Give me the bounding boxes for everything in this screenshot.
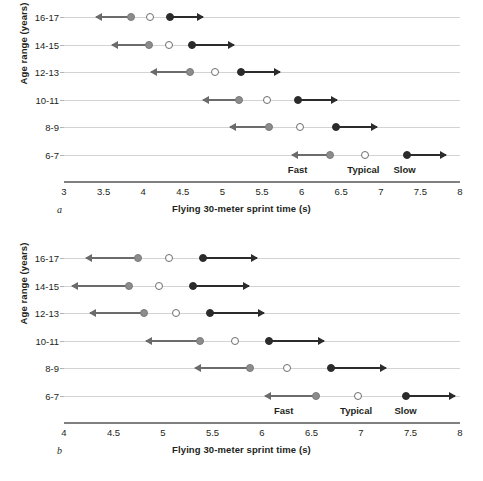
x-tick-labels-a: 33.544.555.566.577.58 xyxy=(0,186,483,200)
chart-row: 12-13 xyxy=(64,64,460,80)
x-tick-label: 3 xyxy=(61,186,66,197)
x-tick-label: 7 xyxy=(358,427,363,438)
row-category-label: 12-13 xyxy=(35,67,59,78)
arrow-head xyxy=(258,309,265,317)
x-tick-label: 4 xyxy=(141,186,146,197)
row-category-label: 8-9 xyxy=(45,363,59,374)
fast-marker xyxy=(134,254,142,262)
x-tick-label: 8 xyxy=(457,427,462,438)
fast-marker xyxy=(235,96,243,104)
slow-marker xyxy=(189,282,197,290)
row-tick xyxy=(60,368,64,369)
arrow-shaft xyxy=(269,340,324,342)
fast-marker xyxy=(265,123,273,131)
y-axis-title-a: Age range (years) xyxy=(18,0,29,119)
fast-marker xyxy=(140,309,148,317)
chart-row: 8-9 xyxy=(64,360,460,376)
slow-marker xyxy=(265,337,273,345)
slow-marker xyxy=(199,254,207,262)
slow-marker xyxy=(332,123,340,131)
arrow-head xyxy=(291,151,298,159)
zone-labels-b: FastTypicalSlow xyxy=(0,405,483,419)
slower-direction-arrow xyxy=(269,340,324,342)
arrow-head xyxy=(145,337,152,345)
slow-marker xyxy=(206,309,214,317)
plot-area-b: Age range (years) 16-1714-1512-1310-118-… xyxy=(0,240,483,481)
zone-label-typical: Typical xyxy=(347,164,379,175)
row-category-label: 14-15 xyxy=(35,280,59,291)
faster-direction-arrow xyxy=(151,71,190,73)
typical-marker xyxy=(165,41,173,49)
slower-direction-arrow xyxy=(203,257,257,259)
fast-marker xyxy=(196,337,204,345)
zone-labels-a: FastTypicalSlow xyxy=(0,164,483,178)
arrow-head xyxy=(85,254,92,262)
arrow-head xyxy=(264,392,271,400)
faster-direction-arrow xyxy=(112,44,149,46)
row-tick xyxy=(60,155,64,156)
slow-marker xyxy=(403,151,411,159)
x-tick-label: 7 xyxy=(378,186,383,197)
faster-direction-arrow xyxy=(265,395,316,397)
typical-marker xyxy=(296,123,304,131)
typical-marker xyxy=(231,337,239,345)
faster-direction-arrow xyxy=(86,257,138,259)
row-category-label: 6-7 xyxy=(45,150,59,161)
y-axis-title-b: Age range (years) xyxy=(18,209,29,359)
row-tick xyxy=(60,286,64,287)
arrow-shaft xyxy=(90,312,144,314)
arrow-head xyxy=(71,282,78,290)
typical-marker xyxy=(155,282,163,290)
x-tick-label: 4 xyxy=(61,427,66,438)
row-baseline xyxy=(64,155,460,156)
faster-direction-arrow xyxy=(146,340,199,342)
x-tick-label: 4.5 xyxy=(107,427,120,438)
arrow-head xyxy=(89,309,96,317)
arrow-head xyxy=(371,123,378,131)
panel-letter-b: b xyxy=(57,445,62,456)
slow-marker xyxy=(294,96,302,104)
fast-marker xyxy=(127,13,135,21)
slow-marker xyxy=(166,13,174,21)
arrow-shaft xyxy=(265,395,316,397)
arrow-shaft xyxy=(406,395,456,397)
chart-row: 10-11 xyxy=(64,333,460,349)
slower-direction-arrow xyxy=(193,285,249,287)
x-tick-label: 6 xyxy=(259,427,264,438)
slower-direction-arrow xyxy=(210,312,264,314)
zone-label-fast: Fast xyxy=(288,164,308,175)
slower-direction-arrow xyxy=(406,395,456,397)
faster-direction-arrow xyxy=(203,99,239,101)
arrow-head xyxy=(229,123,236,131)
arrow-shaft xyxy=(193,285,249,287)
typical-marker xyxy=(172,309,180,317)
fast-marker xyxy=(326,151,334,159)
arrow-shaft xyxy=(86,257,138,259)
arrow-head xyxy=(440,151,447,159)
row-category-label: 10-11 xyxy=(35,94,59,105)
typical-marker xyxy=(211,68,219,76)
zone-label-fast: Fast xyxy=(274,405,294,416)
chart-row: 10-11 xyxy=(64,92,460,108)
x-tick-label: 6 xyxy=(299,186,304,197)
row-category-label: 12-13 xyxy=(35,308,59,319)
typical-marker xyxy=(146,13,154,21)
x-tick-label: 5.5 xyxy=(255,186,268,197)
fast-marker xyxy=(186,68,194,76)
slower-direction-arrow xyxy=(407,154,446,156)
chart-row: 14-15 xyxy=(64,37,460,53)
slower-direction-arrow xyxy=(192,44,235,46)
row-tick xyxy=(60,100,64,101)
arrow-head xyxy=(194,364,201,372)
slower-direction-arrow xyxy=(298,99,338,101)
row-category-label: 16-17 xyxy=(35,253,59,264)
slower-direction-arrow xyxy=(331,367,385,369)
faster-direction-arrow xyxy=(72,285,129,287)
x-axis-title-a: Flying 30-meter sprint time (s) xyxy=(0,203,483,214)
arrow-head xyxy=(251,254,258,262)
x-tick-labels-b: 44.555.566.577.58 xyxy=(0,427,483,441)
slower-direction-arrow xyxy=(170,16,202,18)
arrow-head xyxy=(331,96,338,104)
arrow-shaft xyxy=(331,367,385,369)
row-tick xyxy=(60,45,64,46)
